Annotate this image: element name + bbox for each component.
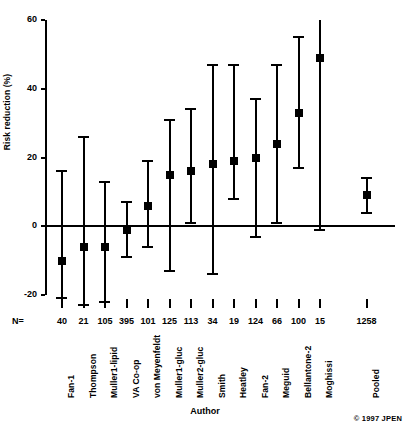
error-bar-line <box>190 109 192 222</box>
x-tick-mark <box>319 299 321 308</box>
error-bar-cap-lower <box>207 273 218 275</box>
x-category-label: Bellantone-2 <box>303 346 313 398</box>
error-bar-cap-lower <box>228 198 239 200</box>
x-tick-mark <box>212 299 214 308</box>
forest-plot-figure: Risk reduction (%) -20020406040Fan-121Th… <box>0 0 410 432</box>
error-bar-cap-upper <box>56 170 67 172</box>
error-bar-cap-upper <box>207 64 218 66</box>
x-tick-mark <box>233 299 235 308</box>
error-bar-cap-upper <box>121 201 132 203</box>
x-tick-mark <box>276 299 278 308</box>
error-bar-line <box>212 65 214 275</box>
error-bar-line <box>298 37 300 168</box>
x-category-label: Meguid <box>281 368 291 398</box>
error-bar-cap-lower <box>164 270 175 272</box>
error-bar-cap-upper <box>185 108 196 110</box>
x-category-label: Heatley <box>238 367 248 398</box>
error-bar-cap-lower <box>271 222 282 224</box>
data-point-marker[interactable] <box>123 226 131 234</box>
error-bar-cap-lower <box>250 236 261 238</box>
data-point-marker[interactable] <box>316 54 324 62</box>
error-bar-cap-upper <box>293 36 304 38</box>
error-bar-line <box>233 65 235 199</box>
error-bar-line <box>319 20 321 230</box>
y-tick-label: -20 <box>11 290 37 299</box>
error-bar-cap-lower <box>314 229 325 231</box>
data-point-marker[interactable] <box>101 243 109 251</box>
y-axis-line <box>45 20 47 295</box>
y-tick-mark <box>41 88 45 90</box>
data-point-marker[interactable] <box>209 160 217 168</box>
data-point-marker[interactable] <box>295 109 303 117</box>
x-tick-mark <box>298 299 300 308</box>
data-point-marker[interactable] <box>144 202 152 210</box>
data-point-marker[interactable] <box>230 157 238 165</box>
x-category-label: VA Co-op <box>131 359 141 398</box>
error-bar-line <box>169 120 171 271</box>
data-point-marker[interactable] <box>252 154 260 162</box>
x-category-label: Muller2-gluc <box>195 347 205 398</box>
error-bar-cap-upper <box>99 181 110 183</box>
error-bar-cap-upper <box>250 98 261 100</box>
copyright-notice: © 1997 JPEN <box>354 414 402 423</box>
x-category-label: Fan-1 <box>66 375 76 398</box>
error-bar-line <box>255 99 257 237</box>
x-category-label: Muller1-lipid <box>109 347 119 398</box>
y-tick-label: 20 <box>11 153 37 162</box>
error-bar-line <box>61 171 63 298</box>
error-bar-cap-lower <box>361 212 372 214</box>
n-value-label: 1258 <box>351 316 383 326</box>
data-point-marker[interactable] <box>80 243 88 251</box>
y-tick-label: 0 <box>11 221 37 230</box>
y-tick-mark <box>41 19 45 21</box>
y-tick-label: 40 <box>11 84 37 93</box>
x-category-label: Moghissi <box>324 360 334 398</box>
data-point-marker[interactable] <box>166 171 174 179</box>
error-bar-line <box>104 182 106 302</box>
data-point-marker[interactable] <box>363 191 371 199</box>
data-point-marker[interactable] <box>58 257 66 265</box>
x-category-label: Pooled <box>371 369 381 398</box>
error-bar-cap-upper <box>361 177 372 179</box>
data-point-marker[interactable] <box>187 167 195 175</box>
x-tick-mark <box>104 299 106 308</box>
error-bar-cap-lower <box>142 246 153 248</box>
error-bar-cap-lower <box>121 256 132 258</box>
x-axis-title: Author <box>0 406 410 416</box>
x-category-label: Thompson <box>88 354 98 398</box>
error-bar-cap-upper <box>164 119 175 121</box>
error-bar-cap-upper <box>78 136 89 138</box>
error-bar-line <box>83 137 85 305</box>
x-tick-mark <box>255 299 257 308</box>
zero-reference-line <box>45 225 395 227</box>
data-point-marker[interactable] <box>273 140 281 148</box>
x-tick-mark <box>190 299 192 308</box>
x-tick-mark <box>61 299 63 308</box>
x-tick-mark <box>126 299 128 308</box>
x-tick-mark <box>366 299 368 308</box>
y-tick-label: 60 <box>11 15 37 24</box>
error-bar-cap-upper <box>142 160 153 162</box>
x-category-label: von Meyenfeldt <box>152 335 162 398</box>
x-category-label: Smith <box>217 374 227 398</box>
error-bar-cap-upper <box>228 64 239 66</box>
y-tick-mark <box>41 157 45 159</box>
n-value-label: 15 <box>304 316 336 326</box>
x-tick-mark <box>147 299 149 308</box>
n-row-prefix: N= <box>12 316 24 326</box>
error-bar-cap-lower <box>293 167 304 169</box>
x-category-label: Fan-2 <box>260 375 270 398</box>
x-tick-mark <box>169 299 171 308</box>
x-category-label: Muller1-gluc <box>174 347 184 398</box>
error-bar-cap-lower <box>185 222 196 224</box>
error-bar-cap-upper <box>271 64 282 66</box>
y-tick-mark <box>41 294 45 296</box>
x-tick-mark <box>83 299 85 308</box>
